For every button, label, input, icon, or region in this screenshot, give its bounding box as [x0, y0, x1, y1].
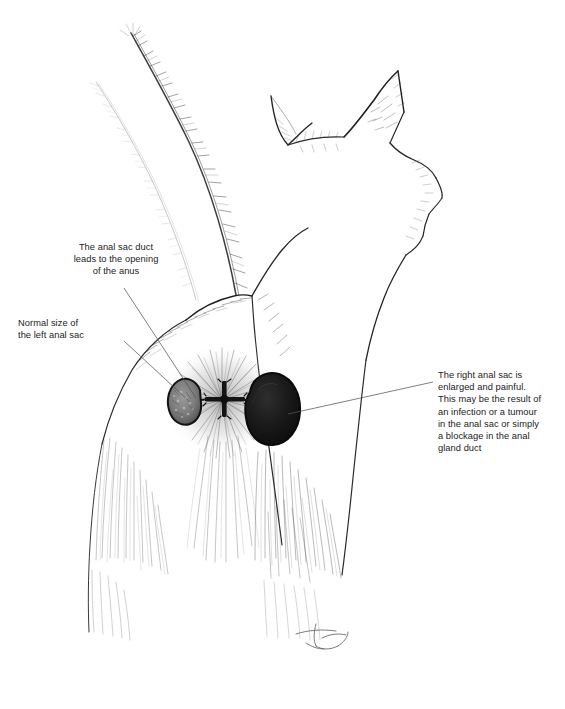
- canvas-background: [0, 0, 565, 709]
- annotation-left-anal-sac: Normal size of the left anal sac: [18, 317, 130, 341]
- anal-sac-illustration: [0, 0, 565, 709]
- annotation-anal-sac-duct: The anal sac duct leads to the opening o…: [60, 241, 172, 278]
- annotation-right-anal-sac: The right anal sac is enlarged and painf…: [438, 369, 562, 454]
